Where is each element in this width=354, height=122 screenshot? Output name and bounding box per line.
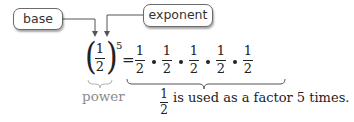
multiply-dot <box>206 60 210 64</box>
denominator: 2 <box>136 62 144 76</box>
denominator: 2 <box>190 62 198 76</box>
equals-sign: = <box>122 51 135 69</box>
denominator: 2 <box>96 60 104 74</box>
exponent-value: 5 <box>116 40 122 51</box>
factor-1: 1 2 <box>135 44 145 76</box>
denominator: 2 <box>217 62 225 76</box>
factor-2: 1 2 <box>162 44 172 76</box>
exponent-label: exponent <box>149 7 208 22</box>
numerator: 1 <box>190 44 198 58</box>
numerator: 1 <box>136 44 144 58</box>
power-label: power <box>82 88 125 104</box>
exponent-label-box: exponent <box>143 4 213 27</box>
denominator: 2 <box>160 104 168 116</box>
base-label: base <box>23 11 53 26</box>
explanation-fraction: 1 2 <box>160 88 168 116</box>
base-fraction: 1 2 <box>95 42 105 74</box>
numerator: 1 <box>244 44 252 58</box>
denominator: 2 <box>163 62 171 76</box>
factor-4: 1 2 <box>216 44 226 76</box>
factors-brace <box>127 79 285 89</box>
numerator: 1 <box>160 88 168 100</box>
multiply-dot <box>233 60 237 64</box>
denominator: 2 <box>244 62 252 76</box>
numerator: 1 <box>217 44 225 58</box>
multiply-dot <box>179 60 183 64</box>
multiply-dot <box>152 60 156 64</box>
explanation-text: is used as a factor 5 times. <box>173 90 349 105</box>
numerator: 1 <box>96 42 104 56</box>
numerator: 1 <box>163 44 171 58</box>
power-brace <box>88 80 112 88</box>
factor-5: 1 2 <box>243 44 253 76</box>
factor-3: 1 2 <box>189 44 199 76</box>
base-label-box: base <box>13 8 63 30</box>
